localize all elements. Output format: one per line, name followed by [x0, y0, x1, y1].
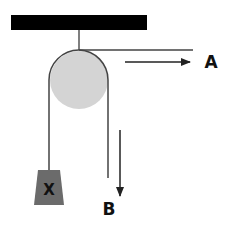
label-a: A: [204, 52, 218, 72]
label-b: B: [103, 199, 116, 219]
weight-label: X: [43, 181, 55, 199]
pulley-diagram: X A B: [0, 0, 227, 227]
ceiling-bar: [11, 15, 147, 30]
